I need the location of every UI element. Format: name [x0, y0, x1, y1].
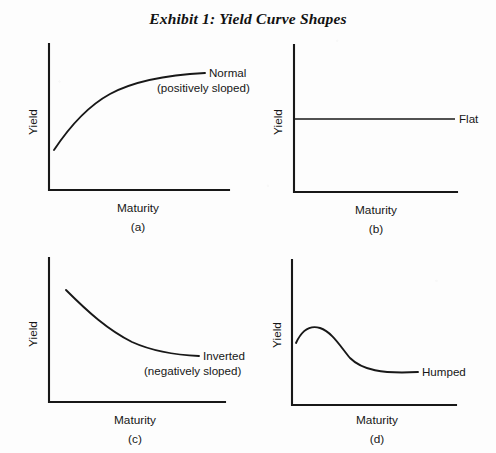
panel-a-annotation-line2: (positively sloped): [157, 81, 250, 96]
panel-a-annotation: Normal (positively sloped): [209, 66, 250, 95]
panel-c-axes: [49, 258, 225, 402]
panel-d-curve: [296, 327, 418, 372]
panel-b: Yield Maturity (b): [271, 45, 457, 236]
panel-c-annotation-line1: Inverted: [203, 349, 245, 362]
panel-b-ylabel: Yield: [271, 109, 285, 135]
panel-d-axes: [292, 260, 456, 405]
panel-c-caption: (c): [128, 432, 142, 446]
panel-c-xlabel: Maturity: [114, 413, 156, 427]
panel-d-annotation: Humped: [422, 365, 466, 380]
panel-d-ylabel: Yield: [270, 322, 284, 348]
panel-b-xlabel: Maturity: [355, 203, 397, 217]
panel-a-annotation-line1: Normal: [209, 66, 246, 79]
panel-c-annotation-line2: (negatively sloped): [144, 364, 245, 379]
panel-d: Yield Maturity (d): [270, 260, 456, 446]
yield-curve-exhibit: Exhibit 1: Yield Curve Shapes Yield Matu…: [0, 0, 496, 453]
panel-c-curve: [66, 290, 199, 356]
panel-a-caption: (a): [131, 220, 145, 234]
panel-b-annotation-line1: Flat: [459, 112, 478, 125]
panel-d-caption: (d): [370, 432, 384, 446]
panel-a-ylabel: Yield: [26, 109, 40, 135]
panel-d-xlabel: Maturity: [356, 413, 398, 427]
panel-d-annotation-line1: Humped: [422, 365, 466, 378]
panel-b-annotation: Flat: [459, 112, 478, 127]
panel-b-caption: (b): [369, 222, 383, 236]
panel-c-ylabel: Yield: [26, 321, 40, 347]
panel-a: Yield Maturity (a): [26, 44, 229, 234]
panel-a-axes: [49, 44, 229, 190]
panel-a-xlabel: Maturity: [117, 201, 159, 215]
panel-c-annotation: Inverted (negatively sloped): [203, 349, 245, 378]
panel-c: Yield Maturity (c): [26, 258, 225, 446]
